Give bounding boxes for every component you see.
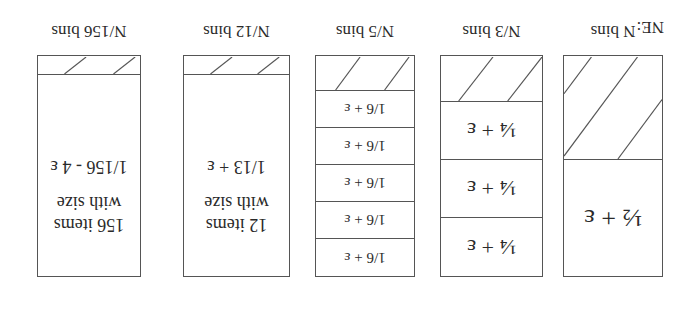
- bin-segment: ¼ + ε: [441, 160, 542, 218]
- bin-n: ½ + ε: [563, 55, 663, 277]
- hatched-region: [564, 57, 662, 160]
- hatch-pattern-icon: [38, 57, 140, 74]
- bin-n-5: 1/6 + ε 1/6 + ε 1/6 + ε 1/6 + ε 1/6 + ε: [315, 55, 415, 277]
- hatched-region: [441, 57, 542, 102]
- hatched-region: [316, 57, 414, 91]
- bin-column-n-5: 1/6 + ε 1/6 + ε 1/6 + ε 1/6 + ε 1/6 + ε: [315, 55, 415, 277]
- bin-item-label: with size: [38, 192, 140, 214]
- hatch-pattern-icon: [316, 57, 414, 90]
- bin-n-3: ¼ + ε ¼ + ε ¼ + ε: [440, 55, 543, 277]
- segment-label: ¼ + ε: [467, 234, 516, 260]
- segment-label: 1/6 + ε: [344, 249, 385, 266]
- bin-segment: ¼ + ε: [441, 102, 542, 160]
- bin-n-12: 12 items with size 1/13 + ε: [183, 55, 290, 277]
- segment-label: 1/6 + ε: [344, 212, 385, 229]
- bin-column-n-3: ¼ + ε ¼ + ε ¼ + ε N/3 bins: [440, 55, 543, 277]
- hatch-pattern-icon: [441, 57, 542, 101]
- bin-segment: 1/6 + ε: [316, 128, 414, 165]
- bin-item-size: 1/13 + ε: [184, 156, 289, 178]
- hatch-pattern-icon: [184, 57, 289, 74]
- bin-n-156: 156 items with size 1/156 - 4 ε: [37, 55, 141, 277]
- bin-segment: 1/6 + ε: [316, 239, 414, 276]
- bin-column-n-12: 12 items with size 1/13 + ε N/12 bins: [183, 55, 290, 277]
- bin-segment: ½ + ε: [564, 160, 662, 276]
- bin-caption: N bins: [563, 21, 663, 41]
- bin-column-n: ½ + ε N bins: [563, 55, 663, 277]
- bin-caption: N/12 bins: [183, 21, 290, 41]
- hatched-region: [184, 57, 289, 75]
- bin-caption: N/5 bins: [315, 21, 415, 41]
- bin-caption: N/3 bins: [440, 21, 543, 41]
- bin-item-count: 12 items: [184, 214, 289, 236]
- hatch-pattern-icon: [564, 57, 662, 159]
- bin-item-size: 1/156 - 4 ε: [38, 156, 140, 178]
- bin-segment: ¼ + ε: [441, 218, 542, 276]
- segment-label: 1/6 + ε: [344, 101, 385, 118]
- bin-segment: 1/6 + ε: [316, 165, 414, 202]
- bin-segment: 1/6 + ε: [316, 202, 414, 239]
- hatched-region: [38, 57, 140, 75]
- segment-label: 1/6 + ε: [344, 175, 385, 192]
- bin-caption: N/156 bins: [37, 21, 141, 41]
- bin-segment: 1/6 + ε: [316, 91, 414, 128]
- segment-label: ¼ + ε: [467, 176, 516, 202]
- bin-item-count: 156 items: [38, 214, 140, 236]
- bin-item-label: with size: [184, 192, 289, 214]
- segment-label: ¼ + ε: [467, 118, 516, 144]
- segment-label: ½ + ε: [584, 203, 642, 233]
- bin-column-n-156: 156 items with size 1/156 - 4 ε N/156 bi…: [37, 55, 141, 277]
- bin-packing-diagram: NE: ½ + ε N bins ¼ + ε ¼ + ε: [0, 0, 698, 327]
- segment-label: 1/6 + ε: [344, 138, 385, 155]
